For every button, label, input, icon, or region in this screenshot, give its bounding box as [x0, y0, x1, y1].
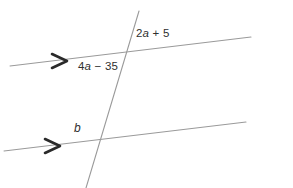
lower-parallel-line: [4, 122, 246, 151]
angle-label-2a-plus-5: 2a + 5: [136, 27, 170, 39]
upper-parallel-line: [10, 37, 251, 66]
transversal-line: [86, 11, 139, 188]
angle-label-4a-minus-35: 4a − 35: [78, 60, 118, 72]
diagram-canvas: Find the value of b on a number line. 2a…: [0, 0, 293, 188]
angle-label-b: b: [74, 121, 81, 135]
